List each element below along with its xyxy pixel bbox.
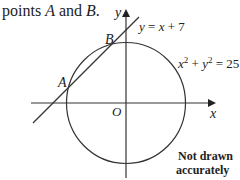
note-line-2: accurately bbox=[176, 163, 229, 177]
origin-label: O bbox=[112, 104, 122, 119]
x-axis-label: x bbox=[209, 106, 217, 121]
point-b-label: B bbox=[105, 32, 114, 47]
line-equation-label: y = x + 7 bbox=[137, 19, 185, 34]
line-y-equals-x-plus-7 bbox=[33, 17, 139, 123]
y-axis-label: y bbox=[113, 5, 122, 20]
point-a-label: A bbox=[57, 75, 67, 90]
note-line-1: Not drawn bbox=[178, 149, 233, 163]
diagram: points A and B. y x O y = x + 7 B A x2 +… bbox=[0, 0, 240, 180]
y-axis-arrow-icon bbox=[122, 9, 130, 17]
circle-equation-label: x2 + y2 = 25 bbox=[177, 55, 239, 71]
question-text: points A and B. bbox=[2, 2, 100, 20]
